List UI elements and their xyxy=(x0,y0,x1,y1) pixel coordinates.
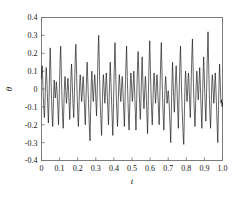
theta-vs-t-line-chart: 0.40.30.20.10-0.1-0.2-0.3-0.4 00.10.20.3… xyxy=(0,0,237,197)
x-tick-label: 0.6 xyxy=(145,164,155,173)
x-tick-label: 0.9 xyxy=(199,164,209,173)
y-tick-label: 0 xyxy=(34,85,38,94)
y-tick-label: 0.2 xyxy=(28,49,38,58)
y-tick-label: -0.2 xyxy=(25,121,38,130)
x-tick-label: 0.4 xyxy=(109,164,119,173)
y-tick-label: 0.3 xyxy=(28,31,38,40)
x-tick-label: 0.5 xyxy=(127,164,137,173)
x-tick-label: 1.0 xyxy=(218,164,228,173)
x-tick-label: 0.3 xyxy=(91,164,101,173)
x-tick-label: 0.7 xyxy=(163,164,173,173)
figure-container: 0.40.30.20.10-0.1-0.2-0.3-0.4 00.10.20.3… xyxy=(0,0,237,197)
y-axis-label: θ xyxy=(4,86,14,91)
y-tick-label: -0.3 xyxy=(25,139,38,148)
y-tick-label: 0.4 xyxy=(28,13,38,22)
y-tick-label: 0.1 xyxy=(28,67,38,76)
y-tick-label: -0.1 xyxy=(25,103,38,112)
x-tick-label: 0.8 xyxy=(181,164,191,173)
y-tick-label: -0.4 xyxy=(25,156,38,165)
x-tick-label: 0.2 xyxy=(73,164,83,173)
x-tick-label: 0.1 xyxy=(55,164,65,173)
x-tick-label: 0 xyxy=(40,164,44,173)
